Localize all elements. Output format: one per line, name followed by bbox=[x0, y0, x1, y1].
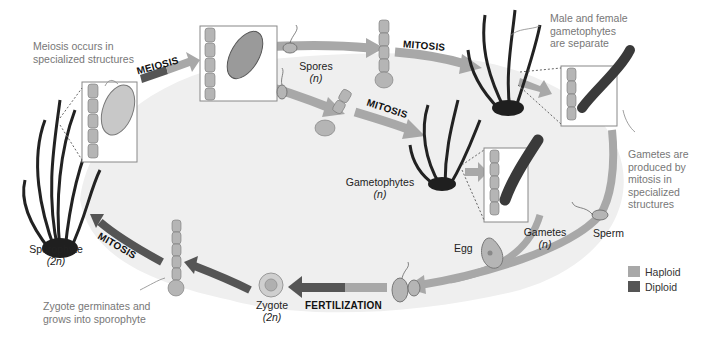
gamete-note: Gametes are produced by mitosis in speci… bbox=[628, 148, 689, 211]
spore-mother-inset bbox=[200, 25, 277, 101]
sporophyte-label: Sporophyte (2n) bbox=[26, 243, 86, 267]
zygote-label: Zygote (2n) bbox=[250, 299, 294, 323]
diploid-swatch bbox=[628, 281, 640, 292]
gametophyte-note: Male and female gametophytes are separat… bbox=[550, 12, 628, 50]
legend-item-diploid: Diploid bbox=[628, 279, 681, 294]
spores-label: Spores (n) bbox=[296, 60, 336, 84]
gametes-label: Gametes (n) bbox=[520, 226, 570, 250]
zygote-cell bbox=[259, 273, 283, 297]
meiosis-note: Meiosis occurs in specialized structures bbox=[33, 40, 134, 65]
sperm-label: Sperm bbox=[593, 227, 624, 239]
zygote-note: Zygote germinates and grows into sporoph… bbox=[43, 300, 150, 325]
legend: Haploid Diploid bbox=[628, 264, 681, 294]
life-cycle-diagram: MEIOSIS MITOSIS MITOSIS FERTILIZATION MI… bbox=[0, 0, 705, 338]
spore-upper bbox=[283, 25, 297, 53]
gametophytes-label: Gametophytes (n) bbox=[340, 176, 420, 200]
haploid-swatch bbox=[628, 266, 640, 277]
egg-label: Egg bbox=[454, 242, 473, 254]
legend-item-haploid: Haploid bbox=[628, 264, 681, 279]
fertilization-label: FERTILIZATION bbox=[305, 300, 382, 311]
